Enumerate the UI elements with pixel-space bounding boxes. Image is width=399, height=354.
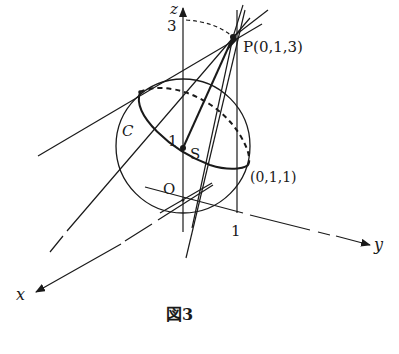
point-011-label: (0,1,1) bbox=[250, 169, 297, 185]
line-p-down-1 bbox=[186, 10, 245, 258]
figure-3-diagram: z 3 P(0,1,3) C 1 S (0,1,1) O 1 y x 図3 bbox=[0, 0, 399, 354]
dashed-arc bbox=[186, 20, 232, 36]
x-axis bbox=[36, 185, 213, 292]
point-p-label: P(0,1,3) bbox=[243, 38, 303, 56]
point-s-dot bbox=[180, 145, 186, 151]
y-axis bbox=[145, 187, 370, 245]
point-s-label: S bbox=[190, 145, 200, 163]
y-axis-label: y bbox=[373, 235, 384, 254]
radius-label: 1 bbox=[168, 132, 178, 150]
z-axis-label: z bbox=[169, 0, 178, 18]
point-o-dot bbox=[182, 199, 185, 202]
tangent-line-2 bbox=[50, 18, 250, 252]
z-tick-label: 3 bbox=[167, 17, 177, 35]
point-p-dot bbox=[230, 34, 236, 40]
line-p-down-2 bbox=[192, 37, 233, 228]
point-c-left-dot bbox=[138, 90, 142, 94]
figure-caption: 図3 bbox=[166, 305, 193, 324]
origin-label: O bbox=[163, 180, 175, 198]
line-p-up-2 bbox=[233, 10, 268, 37]
circle-c-label: C bbox=[122, 122, 134, 140]
x-axis-label: x bbox=[16, 285, 25, 304]
y-tick-label: 1 bbox=[231, 222, 241, 240]
